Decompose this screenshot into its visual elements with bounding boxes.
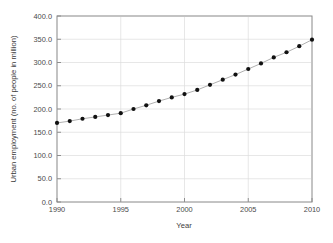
x-axis-tick-labels: 19901995200020052010: [49, 205, 320, 214]
data-point: [182, 92, 186, 96]
line-chart: 0.050.0100.0150.0200.0250.0300.0350.0400…: [0, 0, 333, 243]
data-point: [170, 95, 174, 99]
data-point: [284, 50, 288, 54]
data-point: [221, 78, 225, 82]
y-tick-label: 400.0: [34, 12, 53, 21]
chart-figure: 0.050.0100.0150.0200.0250.0300.0350.0400…: [0, 0, 333, 243]
x-axis-ticks: [57, 198, 312, 202]
data-point: [208, 83, 212, 87]
y-axis-title: Urban employment (no. of people in milli…: [9, 35, 18, 182]
x-axis-title: Year: [176, 221, 192, 230]
data-point: [68, 119, 72, 123]
y-tick-label: 100.0: [34, 151, 53, 160]
x-tick-label: 2010: [304, 205, 320, 214]
data-point: [246, 67, 250, 71]
y-tick-label: 250.0: [34, 81, 53, 90]
data-point: [233, 72, 237, 76]
data-point: [131, 107, 135, 111]
x-tick-label: 1995: [113, 205, 129, 214]
x-tick-label: 1990: [49, 205, 65, 214]
y-tick-label: 200.0: [34, 105, 53, 114]
data-point: [144, 103, 148, 107]
data-point: [55, 121, 59, 125]
data-point: [157, 99, 161, 103]
data-point: [119, 111, 123, 115]
data-point: [272, 55, 276, 59]
data-point: [106, 113, 110, 117]
data-point: [93, 115, 97, 119]
data-point: [80, 117, 84, 121]
x-tick-label: 2000: [176, 205, 192, 214]
y-axis-tick-labels: 0.050.0100.0150.0200.0250.0300.0350.0400…: [34, 12, 53, 207]
data-point: [195, 88, 199, 92]
y-tick-label: 300.0: [34, 58, 53, 67]
y-tick-label: 50.0: [38, 174, 52, 183]
y-axis-ticks: [57, 16, 61, 202]
data-point: [297, 44, 301, 48]
x-tick-label: 2005: [240, 205, 256, 214]
data-point: [259, 61, 263, 65]
y-tick-label: 350.0: [34, 35, 53, 44]
y-tick-label: 150.0: [34, 128, 53, 137]
data-point: [310, 38, 314, 42]
